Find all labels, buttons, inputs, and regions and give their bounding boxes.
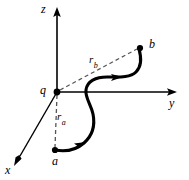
figure-canvas: z y x q a b ra rb	[0, 0, 189, 180]
point-a-dot	[52, 147, 58, 153]
r-b-subscript: b	[94, 61, 98, 70]
x-axis-arrowhead-icon	[14, 155, 22, 166]
diagram-svg	[0, 0, 189, 180]
point-b-dot	[137, 45, 143, 51]
point-b-label: b	[149, 38, 155, 50]
z-axis	[53, 7, 61, 92]
charge-q-label: q	[40, 84, 46, 96]
r-a-symbol: r	[57, 110, 61, 122]
r-a-subscript: a	[62, 118, 66, 127]
z-axis-label: z	[41, 3, 46, 15]
y-axis-label: y	[169, 97, 174, 109]
point-a-label: a	[52, 155, 58, 167]
r-b-label: rb	[89, 54, 97, 68]
r-b-dashed-line	[60, 49, 137, 90]
origin-point-dot	[54, 89, 61, 96]
y-axis	[57, 88, 177, 96]
x-axis	[14, 92, 57, 166]
x-axis-line	[20, 92, 57, 156]
r-b-symbol: r	[89, 53, 93, 65]
r-a-label: ra	[57, 111, 65, 125]
x-axis-label: x	[5, 164, 10, 176]
